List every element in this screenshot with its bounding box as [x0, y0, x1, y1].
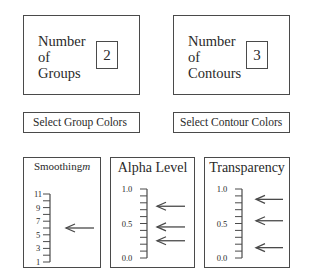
number-of-contours-label: Number of Contours — [188, 33, 241, 81]
tick-label: 0.5 — [217, 219, 228, 229]
number-of-contours-panel: Number of Contours 3 — [173, 15, 290, 95]
tick-label: 1.0 — [122, 184, 133, 194]
tick-label: 1.0 — [217, 184, 228, 194]
tick-label: 1 — [36, 257, 40, 267]
smoothing-slider[interactable]: 1357911 — [24, 158, 102, 269]
tick-label: 5 — [36, 230, 40, 240]
tick-label: 0.0 — [122, 253, 133, 263]
tick-label: 0.5 — [122, 219, 133, 229]
tick-label: 3 — [36, 243, 40, 253]
tick-label: 9 — [36, 203, 40, 213]
transparency-slider-panel: Transparency 0.00.51.0 — [204, 157, 290, 268]
slider-pointer-arrow-icon[interactable] — [256, 217, 283, 225]
slider-pointer-arrow-icon[interactable] — [256, 195, 283, 203]
number-of-groups-label: Number of Groups — [38, 33, 86, 81]
slider-pointer-arrow-icon[interactable] — [256, 244, 283, 252]
number-of-groups-panel: Number of Groups 2 — [23, 15, 140, 95]
tick-label: 11 — [34, 189, 42, 199]
tick-label: 0.0 — [217, 253, 228, 263]
slider-pointer-arrow-icon[interactable] — [157, 202, 185, 210]
transparency-slider[interactable]: 0.00.51.0 — [205, 158, 291, 269]
slider-pointer-arrow-icon[interactable] — [157, 237, 185, 245]
select-group-colors-label: Select Group Colors — [33, 113, 127, 132]
alpha-level-slider[interactable]: 0.00.51.0 — [111, 158, 196, 269]
alpha-level-slider-panel: Alpha Level 0.00.51.0 — [110, 157, 195, 268]
smoothing-slider-panel: Smoothingm 1357911 — [23, 157, 101, 268]
select-contour-colors-label: Select Contour Colors — [180, 113, 282, 132]
slider-pointer-arrow-icon[interactable] — [66, 224, 94, 232]
select-group-colors-button[interactable]: Select Group Colors — [23, 112, 140, 133]
slider-pointer-arrow-icon[interactable] — [157, 223, 185, 231]
number-of-groups-input[interactable]: 2 — [96, 41, 118, 69]
number-of-contours-input[interactable]: 3 — [246, 41, 268, 69]
tick-label: 7 — [36, 216, 40, 226]
select-contour-colors-button[interactable]: Select Contour Colors — [173, 112, 290, 133]
